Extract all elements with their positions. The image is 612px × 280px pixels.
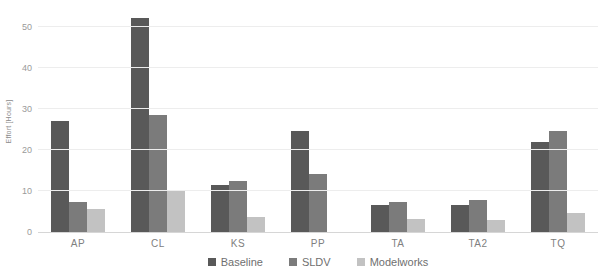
- bar-modelworks-ta2: [487, 220, 505, 232]
- bar-sldv-tq: [549, 131, 567, 232]
- legend-label-sldv: SLDV: [302, 256, 331, 268]
- bar-group-tq: [518, 6, 598, 232]
- y-tick-30: 30: [22, 104, 32, 114]
- x-tick-ap: AP: [38, 238, 118, 249]
- y-axis-title: Effort [Hours]: [5, 92, 12, 152]
- legend-label-baseline: Baseline: [221, 256, 263, 268]
- legend-swatch-baseline: [208, 258, 216, 266]
- bar-modelworks-ap: [87, 209, 105, 232]
- bar-chart: Effort [Hours] 01020304050 APCLKSPPTATA2…: [0, 0, 612, 280]
- bar-group-ta2: [438, 6, 518, 232]
- gridline-50: [38, 26, 598, 27]
- legend-item-modelworks: Modelworks: [357, 256, 429, 268]
- legend-swatch-sldv: [289, 258, 297, 266]
- x-tick-ks: KS: [198, 238, 278, 249]
- legend-item-sldv: SLDV: [289, 256, 331, 268]
- bar-group-pp: [278, 6, 358, 232]
- bar-sldv-ta: [389, 202, 407, 232]
- bar-group-cl: [118, 6, 198, 232]
- bar-baseline-ap: [51, 121, 69, 232]
- x-axis-line: [38, 232, 598, 233]
- bar-modelworks-cl: [167, 191, 185, 232]
- bar-baseline-pp: [291, 131, 309, 232]
- bar-baseline-tq: [531, 142, 549, 232]
- bar-sldv-ap: [69, 202, 87, 232]
- bar-modelworks-ta: [407, 219, 425, 232]
- bar-sldv-ta2: [469, 200, 487, 232]
- legend: BaselineSLDVModelworks: [38, 256, 598, 268]
- legend-item-baseline: Baseline: [208, 256, 263, 268]
- y-tick-10: 10: [22, 186, 32, 196]
- bar-group-ks: [198, 6, 278, 232]
- bar-sldv-pp: [309, 174, 327, 232]
- y-tick-0: 0: [27, 227, 32, 237]
- bar-baseline-ta: [371, 205, 389, 232]
- y-tick-20: 20: [22, 145, 32, 155]
- x-tick-cl: CL: [118, 238, 198, 249]
- gridline-30: [38, 108, 598, 109]
- bar-group-ap: [38, 6, 118, 232]
- gridline-20: [38, 149, 598, 150]
- bar-modelworks-ks: [247, 217, 265, 232]
- y-tick-50: 50: [22, 22, 32, 32]
- x-tick-ta: TA: [358, 238, 438, 249]
- bar-group-ta: [358, 6, 438, 232]
- y-tick-40: 40: [22, 63, 32, 73]
- bar-groups: [38, 6, 598, 232]
- bar-baseline-cl: [131, 18, 149, 232]
- x-axis-labels: APCLKSPPTATA2TQ: [38, 238, 598, 249]
- gridline-10: [38, 190, 598, 191]
- x-tick-tq: TQ: [518, 238, 598, 249]
- x-tick-ta2: TA2: [438, 238, 518, 249]
- bar-modelworks-tq: [567, 213, 585, 232]
- legend-swatch-modelworks: [357, 258, 365, 266]
- x-tick-pp: PP: [278, 238, 358, 249]
- bar-baseline-ks: [211, 185, 229, 232]
- plot-area: 01020304050: [38, 6, 598, 232]
- legend-label-modelworks: Modelworks: [370, 256, 429, 268]
- bar-baseline-ta2: [451, 205, 469, 232]
- bar-sldv-cl: [149, 115, 167, 232]
- gridline-40: [38, 67, 598, 68]
